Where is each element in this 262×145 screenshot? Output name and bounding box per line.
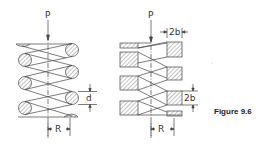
wire-section [167, 67, 182, 80]
wire-section [167, 91, 182, 105]
spring-diagram: P d R [0, 0, 262, 145]
wire-section [167, 42, 182, 57]
right-load-arrowhead [150, 37, 153, 42]
wire-section [66, 92, 79, 105]
right-radius-label: R [158, 124, 164, 134]
wire-section [19, 54, 32, 67]
figure-caption: Figure 9.6 [214, 107, 252, 116]
right-wire-width-label: 2b [169, 27, 181, 37]
square-wire-spring [120, 20, 198, 138]
right-load-label: P [148, 10, 154, 20]
left-radius-label: R [55, 124, 61, 134]
left-wire-dimension-label: d [86, 93, 92, 103]
wire-section [66, 44, 79, 57]
wire-section [120, 52, 138, 67]
left-load-label: P [45, 10, 51, 20]
wire-section [19, 77, 32, 90]
right-wire-height-label: 2b [184, 93, 196, 103]
round-wire-spring [16, 20, 97, 138]
wire-section [66, 66, 79, 79]
wire-section [120, 101, 138, 115]
wire-section [19, 102, 32, 115]
left-load-arrowhead [47, 35, 50, 40]
wire-section [120, 76, 138, 90]
